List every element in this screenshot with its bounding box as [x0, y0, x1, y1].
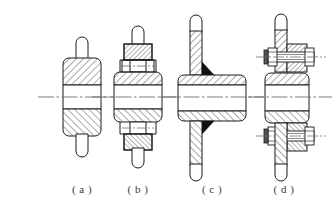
view-d-hub-lower [265, 111, 309, 123]
view-b-pin-collar-top [124, 44, 152, 60]
caption-b: ( b ) [108, 183, 168, 195]
view-c-hub-upper [178, 75, 246, 85]
view-c-web-lower [190, 121, 202, 165]
caption-a: ( a ) [52, 183, 112, 195]
view-c-web-top-cap [190, 15, 202, 32]
view-d-hub-upper [265, 73, 309, 85]
view-a-boss-top [76, 37, 88, 60]
caption-d: ( d ) [254, 183, 314, 195]
view-a-hub-upper [63, 58, 101, 85]
caption-c: ( c ) [182, 183, 242, 195]
engineering-drawing-figure: ( a ) ( b ) ( c ) ( d ) [0, 0, 334, 217]
view-b-boss-top [132, 26, 144, 46]
caption-row: ( a ) ( b ) ( c ) ( d ) [0, 183, 334, 205]
view-d-web-bottom-cap [275, 164, 287, 181]
view-d-web-top-cap [275, 14, 287, 31]
view-d-bore-band [265, 85, 309, 111]
view-c-bore-band [178, 85, 246, 111]
view-d-web-lower [275, 123, 287, 165]
view-a-hub-lower [63, 109, 101, 136]
view-c-web-upper [190, 31, 202, 75]
view-c-hub-lower [178, 111, 246, 121]
view-a-boss-bottom [76, 134, 88, 157]
view-c-web-bottom-cap [190, 164, 202, 181]
view-b-boss-bottom [132, 148, 144, 168]
